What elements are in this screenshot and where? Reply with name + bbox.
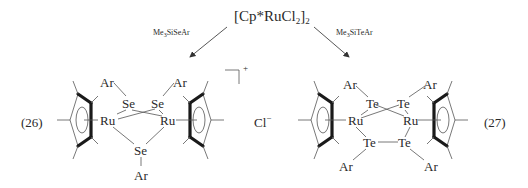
ar-group-top-left: Ar xyxy=(100,75,114,90)
ru-atom-right: Ru xyxy=(160,113,176,128)
ru-atom-left: Ru xyxy=(100,113,116,128)
se-atom-top-left: Se xyxy=(122,96,135,111)
charge-plus: + xyxy=(243,63,248,73)
reagent-left: Me3SiSeAr xyxy=(153,28,190,38)
cp-star-ring-right-27 xyxy=(418,81,468,159)
cp-star-ring-left xyxy=(57,81,98,159)
ar-group-top-right: Ar xyxy=(173,75,187,90)
compound-26: (26) Ru Ru Se Se Se Ar Ar Ar xyxy=(21,63,271,183)
starting-material-label: [Cp*RuCl2]2 xyxy=(234,8,310,26)
se-atom-bottom: Se xyxy=(134,143,147,158)
te-atom-top-right: Te xyxy=(397,96,410,111)
se-atom-top-right: Se xyxy=(151,96,164,111)
te-atom-bottom-right: Te xyxy=(398,135,411,150)
arrow-left xyxy=(190,27,227,57)
te-atom-top-left: Te xyxy=(366,96,379,111)
cp-star-ring-right xyxy=(176,81,224,159)
compound-number-26: (26) xyxy=(21,115,43,130)
reaction-scheme: [Cp*RuCl2]2 Me3SiSeAr Me3SiTeAr (26) Ru … xyxy=(0,0,528,188)
ar-group-top-right-27: Ar xyxy=(423,77,437,92)
reagent-right: Me3SiTeAr xyxy=(336,28,373,38)
ru-atom-right-27: Ru xyxy=(403,113,419,128)
ar-group-bottom-right-27: Ar xyxy=(424,159,438,174)
charge-bracket xyxy=(225,70,239,84)
ar-group-bottom: Ar xyxy=(134,168,148,183)
cp-star-ring-left-27 xyxy=(298,81,346,159)
compound-27: Ru Ru Te Te Te Te Ar Ar Ar Ar xyxy=(298,77,506,174)
ar-group-bottom-left-27: Ar xyxy=(339,159,353,174)
ar-group-top-left-27: Ar xyxy=(343,77,357,92)
compound-number-27: (27) xyxy=(484,115,506,130)
chloride-counterion: Cl− xyxy=(254,113,271,130)
te-atom-bottom-left: Te xyxy=(363,135,376,150)
